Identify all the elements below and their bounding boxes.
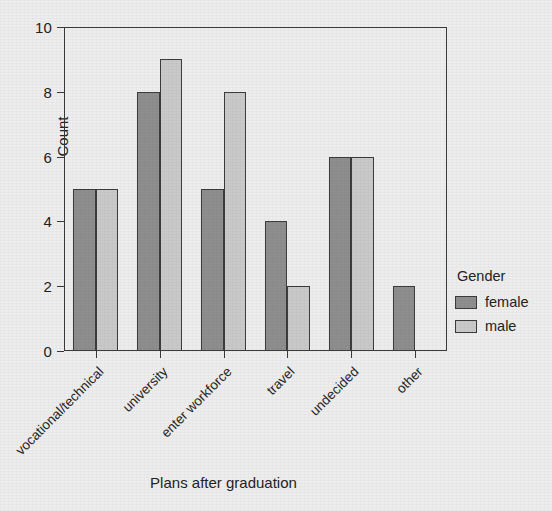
y-tick-label: 4 xyxy=(43,213,52,230)
x-tick-label: enter workforce xyxy=(118,364,235,481)
legend-item[interactable]: female xyxy=(455,291,550,313)
bar xyxy=(160,59,183,351)
bar xyxy=(224,92,247,351)
x-axis-ticks xyxy=(64,351,447,360)
bar xyxy=(96,189,119,351)
legend: Gender femalemale xyxy=(455,268,550,339)
bar xyxy=(201,189,224,351)
y-tick-label: 2 xyxy=(43,278,52,295)
x-tick-label: travel xyxy=(181,364,298,481)
x-tick-mark xyxy=(96,351,97,358)
x-axis-tick-labels: vocational/technicaluniversityenter work… xyxy=(64,360,464,470)
bar xyxy=(329,157,352,351)
plot-area xyxy=(64,27,447,351)
x-tick-label: undecided xyxy=(245,364,362,481)
x-axis-title: Plans after graduation xyxy=(0,474,447,491)
y-tick-label: 6 xyxy=(43,148,52,165)
y-tick-mark xyxy=(57,27,64,28)
bar xyxy=(393,286,416,351)
bar-chart: 0246810 Count vocational/technicaluniver… xyxy=(0,0,552,511)
bar xyxy=(137,92,160,351)
x-tick-mark xyxy=(351,351,352,358)
legend-title: Gender xyxy=(457,268,550,284)
y-tick-mark xyxy=(57,286,64,287)
legend-item[interactable]: male xyxy=(455,315,550,337)
y-tick-label: 10 xyxy=(35,19,52,36)
y-tick-mark xyxy=(57,221,64,222)
x-tick-label: university xyxy=(54,364,171,481)
x-tick-label: vocational/technical xyxy=(0,364,107,481)
legend-swatch-icon xyxy=(455,320,477,333)
bar xyxy=(351,157,374,351)
legend-swatch-icon xyxy=(455,296,477,309)
x-tick-label: other xyxy=(309,364,426,481)
x-tick-mark xyxy=(160,351,161,358)
y-tick-label: 0 xyxy=(43,343,52,360)
bar xyxy=(287,286,310,351)
legend-label: male xyxy=(485,318,516,334)
y-tick-mark xyxy=(57,351,64,352)
legend-entries: femalemale xyxy=(455,291,550,337)
y-axis-ticks: 0246810 xyxy=(0,27,52,351)
legend-label: female xyxy=(485,294,529,310)
x-tick-mark xyxy=(224,351,225,358)
bar xyxy=(265,221,288,351)
bar xyxy=(73,189,96,351)
x-tick-mark xyxy=(415,351,416,358)
x-tick-mark xyxy=(287,351,288,358)
y-tick-label: 8 xyxy=(43,83,52,100)
